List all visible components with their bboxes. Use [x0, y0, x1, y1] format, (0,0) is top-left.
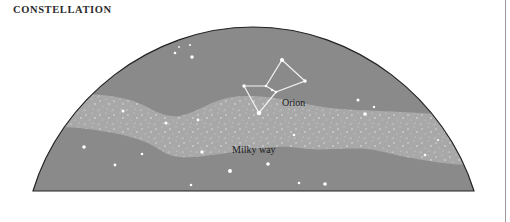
sky-dome-diagram: Orion Milky way [0, 0, 510, 222]
milky-way-label: Milky way [232, 144, 276, 155]
orion-label: Orion [282, 97, 305, 108]
